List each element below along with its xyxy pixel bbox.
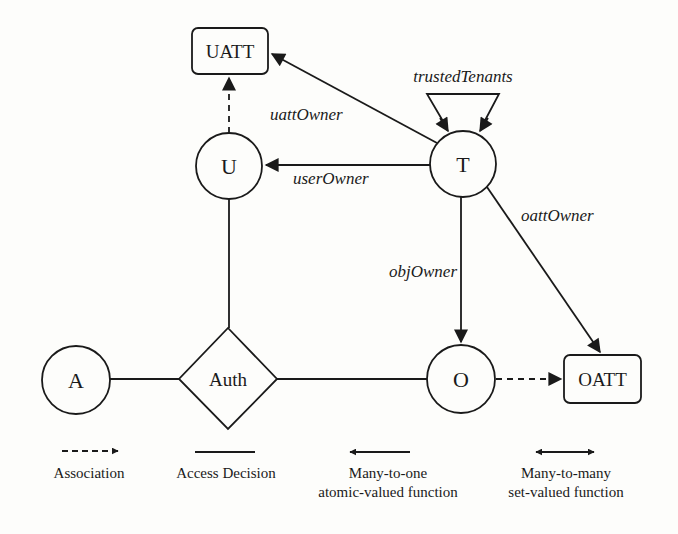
node-o[interactable]: O xyxy=(427,345,495,413)
edge-trustedTenants-loop xyxy=(427,94,499,128)
label-uattOwner: uattOwner xyxy=(270,105,343,124)
node-u[interactable]: U xyxy=(196,133,262,199)
label-objOwner: objOwner xyxy=(389,262,457,281)
node-t-label: T xyxy=(456,152,470,177)
trustedTenants-arrowhead-right xyxy=(480,118,488,131)
node-a-label: A xyxy=(68,368,84,393)
node-a[interactable]: A xyxy=(42,346,110,414)
node-o-label: O xyxy=(453,367,469,392)
legend-many-to-one-sublabel: atomic-valued function xyxy=(318,484,458,500)
legend-association-label: Association xyxy=(54,465,125,481)
node-oatt-label: OATT xyxy=(578,369,627,390)
label-userOwner: userOwner xyxy=(293,169,369,188)
label-oattOwner: oattOwner xyxy=(521,206,594,225)
legend-access-decision-label: Access Decision xyxy=(176,465,276,481)
legend-many-to-one-label: Many-to-one xyxy=(349,465,428,481)
node-uatt-label: UATT xyxy=(206,41,255,62)
node-t[interactable]: T xyxy=(430,131,496,197)
node-auth-label: Auth xyxy=(209,369,248,390)
legend: Association Access Decision Many-to-one … xyxy=(54,451,625,500)
label-trustedTenants: trustedTenants xyxy=(413,67,513,86)
legend-many-to-many-sublabel: set-valued function xyxy=(508,484,624,500)
legend-many-to-many-label: Many-to-many xyxy=(521,465,611,481)
node-auth[interactable]: Auth xyxy=(179,328,277,429)
node-uatt[interactable]: UATT xyxy=(192,28,268,74)
trustedTenants-arrowhead-left xyxy=(440,118,448,131)
node-oatt[interactable]: OATT xyxy=(564,355,641,403)
node-u-label: U xyxy=(221,154,237,179)
diagram-canvas: UATT OATT U T O A Auth uattOwner userOwn… xyxy=(0,0,678,534)
